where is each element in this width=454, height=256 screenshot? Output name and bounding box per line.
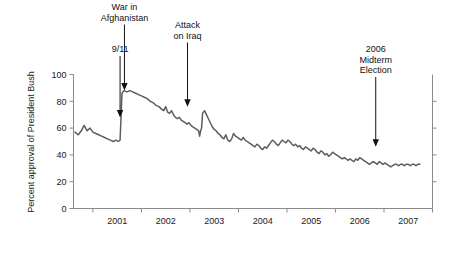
chart-svg: Percent approval of President Bush 02040…: [0, 0, 454, 256]
chart-annotations: 9/11War inAfghanistanAttackon Iraq2006Mi…: [101, 2, 392, 147]
annotation-label: Attack: [175, 20, 201, 30]
annotation-arrow-icon: [373, 139, 379, 147]
annotation-label: Afghanistan: [101, 13, 149, 23]
annotation-arrow-icon: [184, 99, 190, 107]
y-axis-right-ticks: [433, 101, 437, 181]
annotation-label: Election: [360, 65, 392, 75]
annotation-label: 2006: [366, 44, 386, 54]
y-tick-label: 80: [56, 97, 66, 107]
y-tick-label: 20: [56, 177, 66, 187]
x-axis-tick-labels: 2001200220032004200520062007: [107, 216, 418, 226]
x-tick-label: 2005: [301, 216, 321, 226]
x-tick-label: 2001: [107, 216, 127, 226]
x-axis-ticks: [93, 209, 433, 213]
y-axis-title: Percent approval of President Bush: [26, 71, 36, 213]
approval-rating-chart: Percent approval of President Bush 02040…: [0, 0, 454, 256]
annotation-nine-eleven: 9/11: [112, 44, 129, 117]
x-tick-label: 2006: [350, 216, 370, 226]
annotation-attack-iraq: Attackon Iraq: [173, 20, 201, 107]
annotation-label: Midterm: [359, 55, 392, 65]
annotation-midterm-2006: 2006MidtermElection: [359, 44, 392, 147]
annotation-label: War in: [112, 2, 138, 12]
y-tick-label: 100: [51, 70, 66, 80]
annotation-war-afghanistan: War inAfghanistan: [101, 2, 149, 91]
annotation-arrow-icon: [121, 83, 127, 91]
x-tick-label: 2003: [204, 216, 224, 226]
annotation-arrow-icon: [117, 110, 123, 118]
x-tick-label: 2002: [156, 216, 176, 226]
axes: [74, 75, 433, 209]
y-tick-label: 40: [56, 150, 66, 160]
y-axis-ticks: 020406080100: [51, 70, 73, 214]
y-tick-label: 60: [56, 123, 66, 133]
x-tick-label: 2007: [398, 216, 418, 226]
annotation-label: on Iraq: [173, 31, 201, 41]
annotation-label: 9/11: [112, 44, 129, 54]
approval-series-line: [75, 91, 420, 167]
x-tick-label: 2004: [253, 216, 273, 226]
y-tick-label: 0: [61, 204, 66, 214]
